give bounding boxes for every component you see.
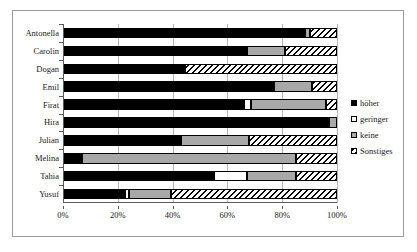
y-axis-label-antonella: Antonella <box>25 29 59 38</box>
bar-segment-sonstiges <box>285 46 337 57</box>
legend-item-geringer[interactable]: geringer <box>351 111 405 127</box>
x-axis-tick <box>282 206 283 209</box>
bar-segment-keine <box>247 171 296 182</box>
y-axis-label-firat: Firat <box>43 101 59 110</box>
bar-segment-keine <box>247 46 285 57</box>
bar-segment-sonstiges <box>312 81 337 92</box>
x-axis-line <box>63 202 337 203</box>
bar-segment-sonstiges <box>249 135 337 146</box>
x-axis-label-40: 40% <box>165 211 181 220</box>
bar-segment-keine <box>181 135 250 146</box>
y-axis-label-melina: Melina <box>35 154 59 163</box>
bar-segment-sonstiges <box>326 99 337 110</box>
bar-row <box>63 189 337 200</box>
x-axis-tick <box>173 206 174 209</box>
bar-segment-sonstiges <box>296 171 337 182</box>
x-axis-tick <box>63 206 64 209</box>
bar-segment-keine <box>274 81 312 92</box>
bar-segment-hoeher <box>63 28 305 39</box>
bar-segment-hoeher <box>63 81 274 92</box>
x-axis-label-20: 20% <box>110 211 126 220</box>
bar-segment-hoeher <box>63 171 214 182</box>
legend-swatch-keine-icon <box>351 132 357 138</box>
bar-segment-keine <box>329 117 337 128</box>
legend-label: geringer <box>360 115 388 124</box>
legend-item-sonstiges[interactable]: Sonstiges <box>351 143 405 159</box>
bar-segment-sonstiges <box>296 153 337 164</box>
legend-label: Sonstiges <box>360 147 393 156</box>
x-axis-label-100: 100% <box>327 211 347 220</box>
bar-segment-hoeher <box>63 153 82 164</box>
y-axis-label-emil: Emil <box>42 83 59 92</box>
bar-row <box>63 81 337 92</box>
bar-segment-hoeher <box>63 117 329 128</box>
bar-row <box>63 153 337 164</box>
legend-item-hoeher[interactable]: höher <box>351 95 405 111</box>
bar-segment-keine <box>129 189 171 200</box>
y-axis-label-hira: Hira <box>44 118 59 127</box>
chart-frame: AntonellaCarolinDoganEmilFiratHiraJulian… <box>12 10 404 237</box>
x-axis-tick <box>337 206 338 209</box>
bar-segment-sonstiges <box>185 64 337 75</box>
bar-segment-hoeher <box>63 64 185 75</box>
legend-label: keine <box>360 131 378 140</box>
legend-label: höher <box>360 99 379 108</box>
x-axis-label-60: 60% <box>220 211 236 220</box>
y-axis-label-tahia: Tahia <box>40 172 59 181</box>
gridline-100 <box>337 24 338 203</box>
bar-segment-keine <box>251 99 326 110</box>
bar-row <box>63 135 337 146</box>
bar-segment-geringer <box>244 99 251 110</box>
y-axis-label-julian: Julian <box>39 136 59 145</box>
legend-swatch-sonstiges-icon <box>351 148 357 154</box>
x-axis-label-0: 0% <box>57 211 68 220</box>
y-axis-category-labels: AntonellaCarolinDoganEmilFiratHiraJulian… <box>13 24 59 203</box>
bar-row <box>63 117 337 128</box>
bar-row <box>63 46 337 57</box>
x-axis-label-80: 80% <box>274 211 290 220</box>
bar-segment-sonstiges <box>310 28 337 39</box>
y-axis-line <box>63 24 64 203</box>
legend-swatch-geringer-icon <box>351 116 357 122</box>
bar-row <box>63 64 337 75</box>
bar-segment-geringer <box>214 171 247 182</box>
legend-swatch-hoeher-icon <box>351 100 357 106</box>
plot-area <box>63 24 337 203</box>
x-axis-tick <box>118 206 119 209</box>
bar-segment-hoeher <box>63 135 181 146</box>
bar-segment-keine <box>82 153 296 164</box>
bar-segment-sonstiges <box>171 189 337 200</box>
bar-row <box>63 99 337 110</box>
bar-segment-hoeher <box>63 46 247 57</box>
y-axis-label-dogan: Dogan <box>36 65 59 74</box>
y-axis-label-yusuf: Yusuf <box>39 190 59 199</box>
y-axis-label-carolin: Carolin <box>34 47 60 56</box>
bar-segment-hoeher <box>63 189 125 200</box>
bar-row <box>63 171 337 182</box>
legend-item-keine[interactable]: keine <box>351 127 405 143</box>
x-axis-tick-labels: 0%20%40%60%80%100% <box>63 206 337 220</box>
chart-legend: höhergeringerkeineSonstiges <box>351 95 405 159</box>
x-axis-tick <box>227 206 228 209</box>
bar-row <box>63 28 337 39</box>
bar-segment-hoeher <box>63 99 244 110</box>
